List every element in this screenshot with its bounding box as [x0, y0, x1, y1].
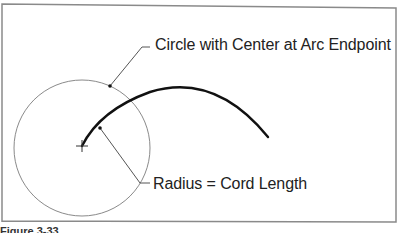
arc-curve — [82, 87, 268, 146]
radius-label: Radius = Cord Length — [153, 175, 307, 193]
center-mark-icon — [76, 140, 88, 152]
diagram-canvas — [0, 0, 399, 233]
figure-caption: Figure 3-33 — [0, 225, 59, 233]
circle-leader-line — [108, 47, 150, 88]
radius-leader-line — [98, 126, 150, 183]
diagram-figure: Circle with Center at Arc Endpoint Radiu… — [0, 0, 399, 233]
circle-label: Circle with Center at Arc Endpoint — [155, 36, 391, 54]
